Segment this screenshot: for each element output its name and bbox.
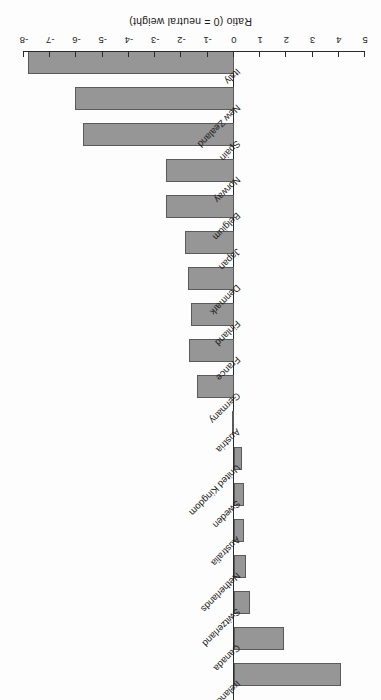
axis-tick [312, 51, 313, 57]
plot-area: IrelandCanadaSwitzerlandNetherlandsAustr… [0, 52, 381, 700]
bar-row [0, 512, 381, 548]
bar-row [0, 440, 381, 476]
bar [234, 663, 342, 686]
bar-row [0, 368, 381, 404]
axis-title: Ratio (0 = neutral weight) [0, 16, 381, 28]
bar-row [0, 584, 381, 620]
bar-row [0, 548, 381, 584]
axis-tick-label: 3 [301, 35, 325, 46]
value-axis: 543210-1-2-3-4-5-6-7-8 Ratio (0 = neutra… [0, 0, 381, 52]
bar [234, 627, 284, 650]
axis-tick-label: 5 [353, 35, 377, 46]
bar-row [0, 404, 381, 440]
bar-row [0, 188, 381, 224]
axis-tick-label: -6 [64, 35, 88, 46]
axis-tick [128, 51, 129, 57]
bar-row [0, 224, 381, 260]
axis-tick [180, 51, 181, 57]
bar-row [0, 152, 381, 188]
bar [197, 375, 234, 398]
bar [166, 159, 234, 182]
axis-tick-label: -5 [91, 35, 115, 46]
bar-row [0, 656, 381, 692]
bar [28, 51, 234, 74]
axis-tick [233, 51, 234, 57]
bar-row [0, 80, 381, 116]
bar-chart-figure: IrelandCanadaSwitzerlandNetherlandsAustr… [0, 0, 381, 700]
bar [75, 87, 234, 110]
axis-tick-label: 0 [222, 35, 246, 46]
axis-tick [49, 51, 50, 57]
bar-row [0, 260, 381, 296]
axis-tick [23, 51, 24, 57]
axis-tick-label: 1 [248, 35, 272, 46]
axis-tick-label: -1 [196, 35, 220, 46]
axis-tick [285, 51, 286, 57]
bar [188, 267, 234, 290]
bar-row [0, 332, 381, 368]
axis-tick-label: -3 [143, 35, 167, 46]
bar-row [0, 296, 381, 332]
axis-tick [259, 51, 260, 57]
axis-tick [338, 51, 339, 57]
axis-tick [154, 51, 155, 57]
axis-tick-label: -8 [12, 35, 36, 46]
axis-tick-label: -4 [117, 35, 141, 46]
bar [189, 339, 234, 362]
axis-tick-label: -2 [169, 35, 193, 46]
bar-row [0, 116, 381, 152]
axis-tick [207, 51, 208, 57]
axis-tick [364, 51, 365, 57]
axis-tick-label: -7 [38, 35, 62, 46]
rotated-figure-wrapper: IrelandCanadaSwitzerlandNetherlandsAustr… [0, 0, 381, 700]
axis-tick-label: 4 [327, 35, 351, 46]
axis-tick-label: 2 [274, 35, 298, 46]
bar-row [0, 620, 381, 656]
axis-tick [102, 51, 103, 57]
axis-tick [75, 51, 76, 57]
